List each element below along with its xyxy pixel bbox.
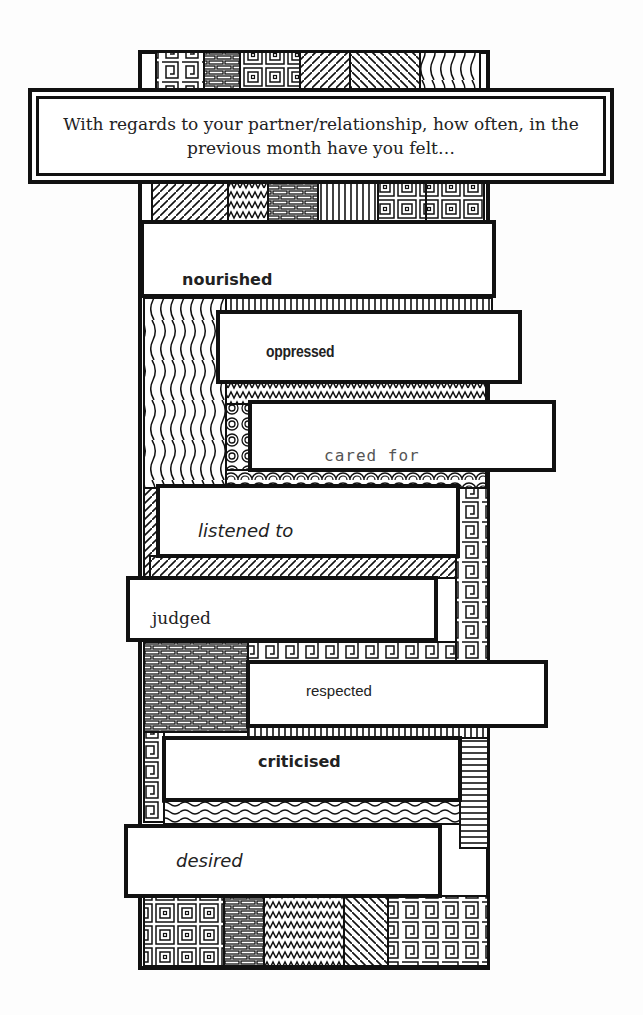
feeling-box-cared-for: cared for bbox=[248, 400, 556, 472]
feeling-label: criticised bbox=[258, 752, 341, 771]
question-header: With regards to your partner/relationshi… bbox=[28, 88, 614, 184]
pattern-band-under-title bbox=[152, 180, 484, 222]
feeling-box-desired: desired bbox=[124, 824, 442, 898]
feeling-box-respected: respected bbox=[246, 660, 548, 728]
pattern-band-top bbox=[156, 52, 480, 92]
question-text: With regards to your partner/relationshi… bbox=[39, 112, 603, 160]
pattern-maze-right bbox=[456, 488, 488, 668]
feeling-label: cared for bbox=[324, 446, 420, 465]
pattern-flow-left bbox=[144, 298, 226, 490]
feeling-label: listened to bbox=[198, 520, 293, 541]
feeling-box-criticised: criticised bbox=[162, 736, 462, 802]
feeling-box-nourished: nourished bbox=[140, 220, 496, 298]
question-header-inner-frame: With regards to your partner/relationshi… bbox=[36, 96, 606, 176]
feeling-label: oppressed bbox=[266, 342, 334, 362]
feeling-box-oppressed: oppressed bbox=[216, 310, 522, 384]
feeling-box-judged: judged bbox=[126, 576, 438, 642]
feeling-label: nourished bbox=[182, 270, 272, 289]
feeling-label: respected bbox=[306, 682, 372, 699]
feeling-label: judged bbox=[152, 608, 211, 628]
feeling-box-listened-to: listened to bbox=[156, 484, 460, 558]
pattern-band-bottom bbox=[144, 896, 488, 966]
feeling-label: desired bbox=[176, 850, 243, 871]
